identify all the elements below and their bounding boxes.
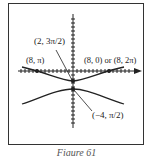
leader-bottom	[74, 90, 92, 111]
label-left-point: (8, π)	[26, 55, 45, 65]
label-bottom-point: (−4, π/2)	[92, 110, 124, 120]
label-right-point: (8, 0) or (8, 2π)	[84, 55, 137, 65]
figure-caption: Figure 61	[0, 147, 153, 156]
x-axis-arrow-icon	[134, 68, 142, 74]
point-left	[35, 69, 39, 73]
point-right	[107, 69, 111, 73]
label-top-point: (2, 3π/2)	[34, 36, 65, 46]
polar-graph: (2, 3π/2) (8, π) (8, 0) or (8, 2π) (−4, …	[0, 0, 153, 156]
leader-top	[56, 50, 72, 80]
